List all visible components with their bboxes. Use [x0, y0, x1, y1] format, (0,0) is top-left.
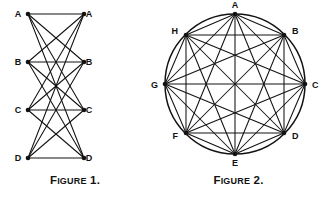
vertex-label: A [86, 9, 93, 19]
graph-vertex [184, 131, 189, 136]
graph-vertex [282, 33, 287, 38]
graph-vertex [233, 12, 238, 17]
vertex-label: B [86, 57, 93, 67]
vertex-label: E [232, 158, 238, 168]
graph-vertex [26, 156, 31, 161]
vertex-label: C [86, 105, 93, 115]
vertex-label: C [15, 105, 22, 115]
figure-1-caption-word: IGURE [57, 176, 87, 186]
figure-2-caption-number: 2. [250, 174, 263, 186]
figure-board: AABBCCDD FIGURE 1. ABCDEFGH FIGURE 2. [0, 0, 327, 197]
vertex-label: A [15, 9, 22, 19]
graph-vertex [282, 131, 287, 136]
figure-2-caption-word: IGURE [221, 176, 251, 186]
graph-vertex [303, 82, 308, 87]
graph-vertex [26, 12, 31, 17]
figure-2-caption: FIGURE 2. [150, 170, 327, 188]
graph-vertex [184, 33, 189, 38]
figure-1-caption-number: 1. [87, 174, 100, 186]
vertex-label: A [232, 0, 239, 10]
vertex-label: B [292, 26, 299, 36]
figure-2-caption-lead: F [213, 174, 220, 186]
graph-vertex [26, 108, 31, 113]
vertex-label: F [173, 131, 179, 141]
vertex-label: B [15, 57, 22, 67]
figure-1-container: AABBCCDD [0, 0, 150, 197]
vertex-label: D [15, 153, 22, 163]
figure-1-diagram: AABBCCDD [0, 0, 150, 170]
figure-1-caption: FIGURE 1. [0, 170, 150, 188]
vertex-label: D [86, 153, 93, 163]
graph-vertex [233, 152, 238, 157]
graph-vertex [163, 82, 168, 87]
figure-2-diagram: ABCDEFGH [150, 0, 327, 170]
vertex-label: H [172, 26, 179, 36]
vertex-label: D [292, 131, 299, 141]
vertex-label: C [312, 80, 319, 90]
graph-vertex [26, 60, 31, 65]
vertex-label: G [151, 80, 158, 90]
figure-2-container: ABCDEFGH [150, 0, 327, 197]
